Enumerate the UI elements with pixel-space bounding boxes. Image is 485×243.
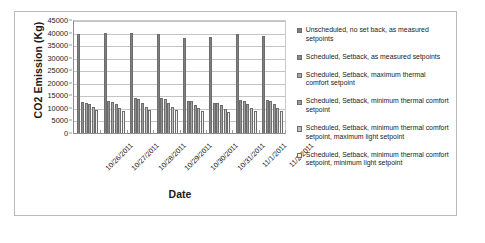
bar bbox=[276, 108, 279, 134]
bar bbox=[141, 103, 144, 134]
legend-item: Scheduled, Setback, minimum thermal comf… bbox=[297, 97, 449, 114]
bar bbox=[164, 99, 167, 134]
y-axis-ticks: 4500040000350003000025000200001500010000… bbox=[39, 20, 71, 133]
y-axis-tick-label: 15000 bbox=[47, 91, 68, 100]
x-axis-tick-label: 10/31/2011 bbox=[235, 141, 266, 172]
bar bbox=[262, 36, 265, 134]
bar bbox=[254, 111, 257, 134]
bar bbox=[216, 103, 219, 134]
bar bbox=[201, 111, 204, 134]
legend-item: Scheduled, Setback, as measured setpoint… bbox=[297, 53, 449, 62]
y-axis-tick-mark bbox=[69, 107, 72, 108]
y-axis-tick-label: 45000 bbox=[47, 16, 68, 25]
bar bbox=[194, 105, 197, 134]
bar bbox=[88, 104, 91, 134]
bar bbox=[273, 104, 276, 134]
bar bbox=[243, 101, 246, 134]
bar bbox=[95, 110, 98, 134]
bar bbox=[224, 109, 227, 134]
bar-group bbox=[154, 21, 180, 134]
legend-item: Scheduled, Setback, minimum thermal comf… bbox=[297, 151, 449, 168]
bar bbox=[107, 101, 110, 134]
x-axis-tick-label: 10/30/2011 bbox=[209, 141, 240, 172]
x-axis-tick-label: 10/27/2011 bbox=[130, 141, 161, 172]
bar bbox=[227, 112, 230, 134]
bar bbox=[92, 107, 95, 134]
y-axis-tick-label: 35000 bbox=[47, 41, 68, 50]
bar bbox=[160, 98, 163, 134]
bar bbox=[85, 103, 88, 134]
bar-group bbox=[207, 21, 233, 134]
x-axis-title: Date bbox=[75, 188, 285, 200]
bar bbox=[246, 104, 249, 134]
y-axis-tick-mark bbox=[69, 70, 72, 71]
bar bbox=[209, 37, 212, 134]
plot-area bbox=[73, 20, 286, 134]
legend-label: Scheduled, Setback, minimum thermal comf… bbox=[306, 151, 449, 168]
y-axis-tick-label: 20000 bbox=[47, 78, 68, 87]
bar bbox=[250, 108, 253, 134]
legend-item: Scheduled, Setback, maximum thermal comf… bbox=[297, 71, 449, 88]
x-axis-tick-label: 10/28/2011 bbox=[156, 141, 187, 172]
bar bbox=[213, 103, 216, 134]
bar bbox=[266, 100, 269, 134]
bar bbox=[167, 103, 170, 134]
bar-groups bbox=[75, 21, 286, 134]
y-axis-tick-label: 30000 bbox=[47, 53, 68, 62]
bar bbox=[145, 107, 148, 134]
bar-group bbox=[128, 21, 154, 134]
legend-swatch-icon bbox=[297, 55, 302, 60]
bar bbox=[134, 98, 137, 134]
bar bbox=[197, 108, 200, 134]
bar bbox=[175, 110, 178, 134]
legend-swatch-icon bbox=[297, 153, 302, 158]
bar bbox=[111, 102, 114, 134]
y-axis-tick-mark bbox=[69, 133, 72, 134]
bar bbox=[122, 111, 125, 134]
bar bbox=[190, 101, 193, 134]
y-axis-tick-mark bbox=[69, 57, 72, 58]
x-axis-ticks: 10/26/201110/27/201110/28/201110/29/2011… bbox=[74, 139, 285, 189]
bar bbox=[104, 33, 107, 134]
bar bbox=[236, 34, 239, 134]
legend-label: Unscheduled, no set back, as measured se… bbox=[306, 26, 449, 43]
y-axis-tick-label: 10000 bbox=[47, 103, 68, 112]
y-axis-tick-label: 25000 bbox=[47, 66, 68, 75]
chart-figure: CO2 Emission (Kg) 4500040000350003000025… bbox=[14, 11, 457, 216]
plot-area-wrapper: 4500040000350003000025000200001500010000… bbox=[73, 20, 286, 139]
y-axis-tick-mark bbox=[69, 95, 72, 96]
legend-swatch-icon bbox=[297, 100, 302, 105]
bar bbox=[115, 104, 118, 134]
bar bbox=[239, 100, 242, 134]
y-axis-tick-label: 5000 bbox=[52, 116, 68, 125]
bar bbox=[183, 38, 186, 134]
y-axis-tick-mark bbox=[69, 82, 72, 83]
bar bbox=[148, 110, 151, 134]
x-axis-line bbox=[73, 133, 285, 134]
bar-group bbox=[101, 21, 127, 134]
bar bbox=[171, 107, 174, 134]
bar bbox=[220, 105, 223, 134]
bar bbox=[118, 108, 121, 134]
chart-legend: Unscheduled, no set back, as measured se… bbox=[297, 26, 449, 178]
legend-item: Unscheduled, no set back, as measured se… bbox=[297, 26, 449, 43]
y-axis-tick-mark bbox=[69, 20, 72, 21]
bar bbox=[187, 101, 190, 134]
legend-swatch-icon bbox=[297, 73, 302, 78]
legend-label: Scheduled, Setback, minimum thermal comf… bbox=[306, 97, 449, 114]
bar-group bbox=[260, 21, 286, 134]
legend-item: Scheduled, Setback, minimum thermal comf… bbox=[297, 124, 449, 141]
y-axis-tick-label: 40000 bbox=[47, 28, 68, 37]
y-axis-tick-mark bbox=[69, 120, 72, 121]
bar bbox=[280, 111, 283, 134]
y-axis-tick-mark bbox=[69, 45, 72, 46]
bar bbox=[77, 34, 80, 134]
bar-group bbox=[75, 21, 101, 134]
legend-swatch-icon bbox=[297, 126, 302, 131]
bar bbox=[130, 33, 133, 134]
bar bbox=[157, 34, 160, 134]
bar bbox=[137, 99, 140, 134]
legend-label: Scheduled, Setback, maximum thermal comf… bbox=[306, 71, 449, 88]
bar bbox=[81, 102, 84, 134]
legend-label: Scheduled, Setback, minimum thermal comf… bbox=[306, 124, 449, 141]
